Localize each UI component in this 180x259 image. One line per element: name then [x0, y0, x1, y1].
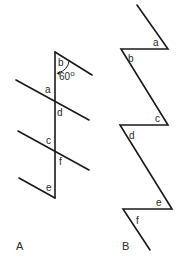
- zigzag-line: [120, 5, 172, 250]
- angle-label-a: a: [45, 84, 51, 95]
- angle-label-d: d: [57, 107, 63, 118]
- angle-label-f: f: [136, 215, 139, 226]
- diagram-b: a b c d e f B: [120, 5, 172, 252]
- parallel-line-2: [18, 131, 89, 170]
- panel-label-a: A: [16, 240, 24, 252]
- angle-label-a: a: [153, 37, 159, 48]
- angle-label-f: f: [59, 156, 62, 167]
- parallel-line-1: [16, 80, 89, 120]
- angle-label-b: b: [128, 53, 134, 64]
- angle-label-c: c: [155, 113, 160, 124]
- angle-label-c: c: [46, 135, 51, 146]
- diagram-a: b 60o a d c f e A: [16, 52, 92, 252]
- angle-value: 60: [59, 71, 71, 82]
- angle-label-e: e: [46, 182, 52, 193]
- angle-label-e: e: [156, 197, 162, 208]
- panel-label-b: B: [122, 240, 129, 252]
- angle-value-label: 60o: [59, 69, 75, 82]
- angle-label-b: b: [58, 57, 64, 68]
- parallel-lines-angle-figure: b 60o a d c f e A a b c d e f B: [0, 0, 180, 259]
- angle-label-d: d: [129, 130, 135, 141]
- degree-symbol: o: [70, 69, 75, 78]
